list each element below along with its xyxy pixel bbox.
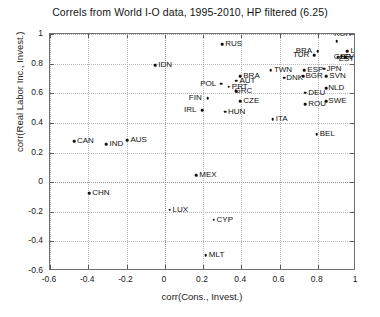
y-tick-label: 0	[0, 176, 43, 186]
data-point-label: POL	[200, 80, 216, 88]
data-point	[239, 100, 242, 103]
x-gridline	[165, 34, 166, 269]
data-point	[88, 192, 91, 195]
data-point	[325, 100, 328, 103]
data-point	[304, 91, 307, 94]
y-tick-label: 0.2	[0, 147, 43, 157]
data-point-label: RUS	[225, 40, 242, 48]
data-point	[325, 75, 328, 78]
data-point	[313, 54, 316, 57]
data-point	[272, 118, 275, 121]
data-point	[73, 140, 76, 143]
chart-title: Correls from World I-O data, 1995-2010, …	[0, 6, 380, 18]
y-tick	[350, 64, 354, 65]
x-tick	[241, 265, 242, 269]
data-point-label: ROU	[308, 100, 326, 108]
data-point	[212, 219, 215, 222]
y-tick	[350, 241, 354, 242]
data-point-label: IDN	[158, 61, 172, 69]
data-point-label: HUN	[228, 108, 245, 116]
x-tick	[50, 265, 51, 269]
y-tick	[50, 34, 54, 35]
data-point	[283, 76, 286, 79]
y-tick	[50, 153, 54, 154]
data-point-label: GBR	[334, 53, 351, 61]
x-tick-label: 1	[353, 274, 358, 284]
x-gridline	[88, 34, 89, 269]
data-point-label: BEL	[320, 130, 335, 138]
data-point-label: CYP	[217, 216, 233, 224]
data-point-label: SWE	[328, 97, 346, 105]
y-tick-label: 0.4	[0, 117, 43, 127]
data-point-label: CAN	[77, 137, 94, 145]
data-point	[221, 43, 224, 46]
y-tick-label: 0.6	[0, 87, 43, 97]
y-tick-label: -0.4	[0, 235, 43, 245]
data-point	[315, 133, 318, 136]
y-gridline	[50, 34, 354, 35]
data-point-label: NLD	[328, 84, 344, 92]
data-point-label: ITA	[276, 115, 288, 123]
data-point-label: BGR	[305, 72, 322, 80]
x-tick	[203, 265, 204, 269]
data-point-label: SVN	[329, 72, 345, 80]
y-tick	[350, 123, 354, 124]
data-point	[201, 109, 204, 112]
data-point-label: MEX	[199, 171, 216, 179]
data-point	[206, 97, 209, 100]
data-point-label: LUX	[173, 206, 189, 214]
data-point-label: TUR	[293, 51, 309, 59]
x-tick	[165, 265, 166, 269]
x-gridline	[241, 34, 242, 269]
y-gridline	[50, 123, 354, 124]
y-gridline	[50, 212, 354, 213]
y-tick	[50, 182, 54, 183]
x-tick	[88, 265, 89, 269]
plot-inner: RUSIDNKORBRATURLVASVKESTGBRTWNESPJPNBGRS…	[50, 34, 354, 269]
plot-area: RUSIDNKORBRATURLVASVKESTGBRTWNESPJPNBGRS…	[49, 33, 355, 270]
x-tick-label: -0.2	[118, 274, 133, 284]
data-point	[195, 174, 198, 177]
data-point	[126, 139, 129, 142]
y-tick-label: 1	[0, 28, 43, 38]
x-tick-label: 0.2	[196, 274, 208, 284]
y-gridline	[50, 153, 354, 154]
y-tick	[50, 241, 54, 242]
x-tick-label: 0	[161, 274, 166, 284]
data-point	[168, 208, 171, 211]
y-tick-label: -0.2	[0, 206, 43, 216]
data-point-label: IRL	[184, 106, 196, 114]
x-tick	[127, 265, 128, 269]
y-tick-label: -0.6	[0, 265, 43, 275]
y-gridline	[50, 241, 354, 242]
y-gridline	[50, 182, 354, 183]
y-tick	[350, 182, 354, 183]
y-tick	[50, 93, 54, 94]
data-point-label: AUS	[130, 136, 146, 144]
x-axis-title: corr(Cons., Invest.)	[49, 291, 355, 302]
data-point	[270, 69, 273, 72]
y-tick	[50, 64, 54, 65]
y-tick	[50, 212, 54, 213]
data-point	[325, 87, 328, 90]
data-point	[220, 82, 223, 85]
data-point	[154, 64, 157, 67]
data-point	[304, 103, 307, 106]
x-tick-label: -0.4	[80, 274, 95, 284]
data-point	[228, 85, 231, 88]
x-tick	[318, 265, 319, 269]
x-tick	[280, 265, 281, 269]
data-point-label: CHN	[92, 189, 109, 197]
x-tick-label: 0.6	[273, 274, 285, 284]
data-point	[224, 110, 227, 113]
data-point-label: DNK	[286, 74, 303, 82]
data-point	[105, 143, 108, 146]
x-gridline	[50, 34, 51, 269]
x-gridline	[203, 34, 204, 269]
y-tick-label: 0.8	[0, 58, 43, 68]
data-point-label: DEU	[308, 89, 325, 97]
x-gridline	[127, 34, 128, 269]
y-tick	[350, 212, 354, 213]
data-point-label: MLT	[209, 251, 224, 259]
x-tick-label: 0.8	[311, 274, 323, 284]
